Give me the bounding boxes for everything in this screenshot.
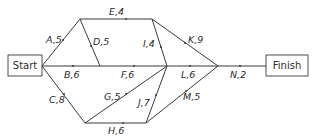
activity-label-k: K,9: [188, 34, 203, 45]
activity-label-d: D,5: [93, 36, 109, 47]
activity-label-b: B,6: [64, 69, 80, 80]
activity-label-n: N,2: [230, 69, 246, 80]
activity-label-a: A,5: [45, 34, 62, 45]
activity-label-g: G,5: [104, 91, 120, 102]
start-label: Start: [13, 60, 38, 71]
activity-label-h: H,6: [108, 125, 124, 136]
activity-label-l: L,6: [181, 69, 195, 80]
finish-node: Finish: [266, 55, 308, 76]
finish-label: Finish: [273, 60, 301, 71]
activity-label-i: I,4: [143, 38, 155, 49]
activity-label-c: C,8: [49, 94, 65, 105]
activity-label-m: M,5: [183, 91, 200, 102]
network-diagram: Start Finish A,5 B,6 C,8 D,5 E,4 F,6 G,5…: [0, 0, 315, 140]
activity-label-e: E,4: [109, 6, 124, 17]
activity-label-j: J,7: [136, 97, 150, 108]
activity-label-f: F,6: [121, 69, 134, 80]
start-node: Start: [8, 55, 42, 76]
